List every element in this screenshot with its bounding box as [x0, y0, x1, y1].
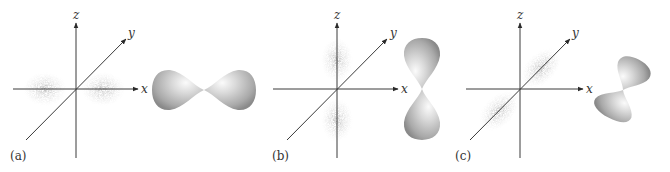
orbital-lobe-negative-y — [590, 80, 641, 127]
panel-a: z y x (a) — [10, 8, 256, 163]
panel-label-a: (a) — [10, 149, 27, 163]
orbital-lobe-positive-y — [607, 51, 654, 98]
orbital-lobe-negative-x — [152, 70, 204, 110]
panel-b: z y x (b) — [272, 8, 440, 163]
panel-label-c: (c) — [455, 149, 471, 163]
p-orbitals-figure: z y x (a) z y x (b) — [0, 0, 670, 172]
panel-label-b: (b) — [272, 149, 289, 163]
x-axis-label: x — [141, 82, 148, 96]
panel-c: z y x (c) — [455, 8, 655, 163]
orbital-lobe-positive-z — [404, 38, 440, 89]
pz-orbital-boundary-surface — [404, 38, 440, 140]
z-axis-label: z — [333, 8, 341, 22]
y-axis-label: y — [389, 26, 397, 40]
x-axis-label: x — [586, 82, 593, 96]
z-axis-label: z — [72, 8, 80, 22]
py-orbital-boundary-surface — [590, 51, 654, 127]
px-orbital-boundary-surface — [152, 70, 256, 110]
orbital-lobe-positive-x — [204, 70, 256, 110]
y-axis-label: y — [571, 26, 579, 40]
orbital-lobe-negative-z — [404, 89, 440, 140]
y-axis-label: y — [127, 26, 135, 40]
x-axis-label: x — [401, 82, 408, 96]
z-axis-label: z — [516, 8, 524, 22]
